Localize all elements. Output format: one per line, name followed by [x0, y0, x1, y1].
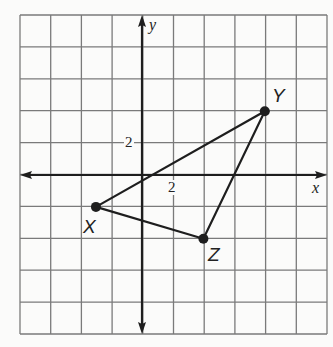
vertex-point-y [260, 106, 270, 116]
y-tick-label-2: 2 [124, 135, 134, 150]
point-label-z: Z [208, 245, 220, 264]
vertex-point-x [91, 202, 101, 212]
y-axis-label: y [149, 17, 156, 33]
x-tick-label-2: 2 [167, 180, 177, 195]
point-label-y: Y [272, 86, 285, 105]
vertex-point-z [198, 234, 208, 244]
coordinate-plane [0, 0, 333, 347]
x-axis-label: x [312, 180, 319, 196]
point-label-x: X [83, 217, 96, 236]
